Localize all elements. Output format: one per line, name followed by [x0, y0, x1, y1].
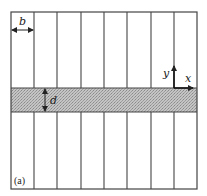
x-axis-label: x — [185, 72, 192, 85]
y-axis-label: y — [162, 67, 170, 80]
d-label: d — [50, 94, 57, 107]
panel-label: (a) — [14, 175, 25, 187]
stripe-domain-diagram: b d y x (a) — [0, 0, 207, 196]
shaded-band — [11, 88, 197, 112]
lower-column-lines — [34, 112, 174, 189]
upper-column-lines — [34, 12, 174, 88]
b-label: b — [19, 15, 26, 28]
